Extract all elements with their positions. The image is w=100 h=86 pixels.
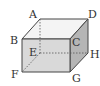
vertex-label-F: F — [11, 68, 19, 81]
vertex-label-D: D — [88, 8, 97, 21]
vertex-label-H: H — [90, 48, 100, 61]
vertex-label-B: B — [10, 34, 18, 47]
cuboid-diagram: A B C D E F G H — [0, 0, 100, 86]
vertex-label-E: E — [29, 46, 37, 59]
vertex-label-G: G — [72, 72, 81, 85]
vertex-label-C: C — [72, 36, 80, 49]
vertex-label-A: A — [28, 8, 38, 21]
